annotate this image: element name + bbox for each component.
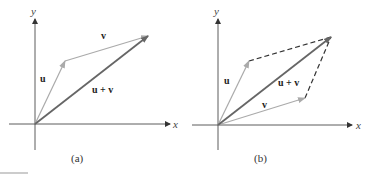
y-axis-label: y (213, 5, 219, 17)
label-v: v (101, 30, 106, 41)
x-axis-label: x (172, 118, 178, 130)
dashed-side-top (249, 37, 331, 61)
label-u-plus-v: u + v (92, 84, 113, 95)
x-axis-label: x (355, 119, 361, 131)
vector-u-plus-v (218, 37, 331, 125)
label-u-plus-v: u + v (278, 77, 299, 88)
panel-b: x y u v u + v (b) (192, 5, 361, 165)
vector-addition-figure: x y u v u + v (a) x y u v u + v (b) (0, 0, 369, 176)
caption-a: (a) (71, 152, 84, 165)
label-u: u (40, 73, 46, 84)
vector-u (35, 61, 65, 124)
vector-v (65, 36, 148, 61)
y-axis-label: y (30, 5, 36, 17)
vector-u (218, 61, 249, 125)
caption-b: (b) (254, 152, 267, 165)
label-u: u (224, 75, 230, 86)
label-v: v (262, 99, 267, 110)
panel-a: x y u v u + v (a) (9, 5, 178, 165)
vector-u-plus-v (35, 36, 148, 124)
